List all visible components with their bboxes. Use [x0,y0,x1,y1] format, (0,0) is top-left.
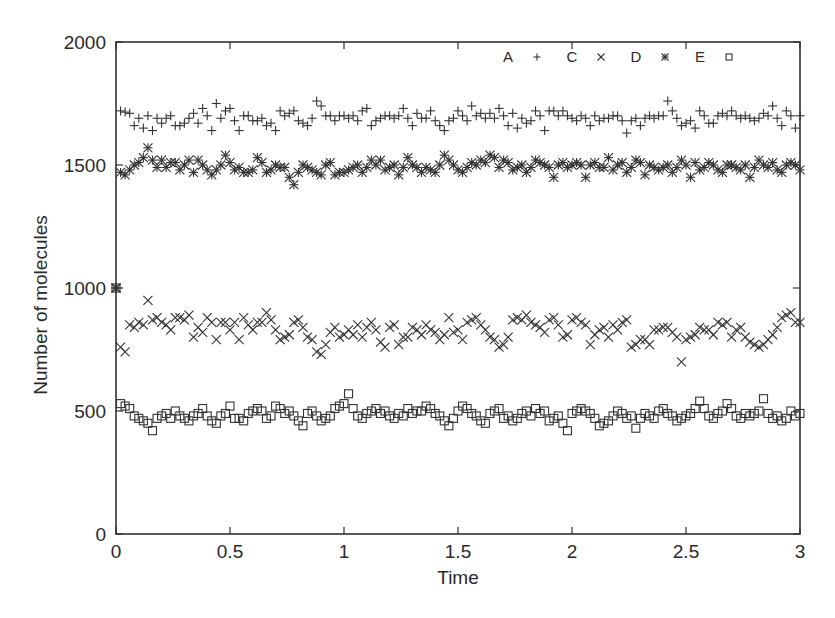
x-tick-label: 2 [567,541,578,562]
y-tick-label: 1000 [64,278,106,299]
plot-frame [116,42,800,534]
legend-label-C: C [567,48,578,65]
y-tick-label: 2000 [64,32,106,53]
series-D [112,143,805,292]
x-axis-title: Time [437,567,479,588]
x-tick-label: 1 [339,541,350,562]
x-tick-label: 2.5 [673,541,699,562]
y-tick-label: 0 [95,524,106,545]
data-points [112,97,805,435]
x-tick-label: 3 [795,541,806,562]
legend-marker-cross-icon [598,54,605,61]
y-tick-label: 500 [74,401,106,422]
series-A [112,97,805,293]
axis-ticks: 00.511.522.530500100015002000 [64,32,806,562]
legend-marker-square-icon [726,54,732,60]
legend-marker-star-icon [662,54,669,61]
x-tick-label: 0 [111,541,122,562]
legend-label-E: E [695,48,705,65]
legend-label-A: A [503,48,513,65]
legend: ACDE [503,48,732,65]
series-C [112,284,805,367]
y-tick-label: 1500 [64,155,106,176]
y-axis-title: Number of molecules [30,215,51,395]
series-E [112,284,804,435]
legend-marker-plus-icon [534,54,541,61]
x-tick-label: 0.5 [217,541,243,562]
x-tick-label: 1.5 [445,541,471,562]
legend-label-D: D [631,48,642,65]
plot-border [116,42,800,534]
scatter-chart: 00.511.522.530500100015002000 ACDE Time … [0,0,835,618]
chart-canvas: 00.511.522.530500100015002000 ACDE Time … [0,0,835,618]
